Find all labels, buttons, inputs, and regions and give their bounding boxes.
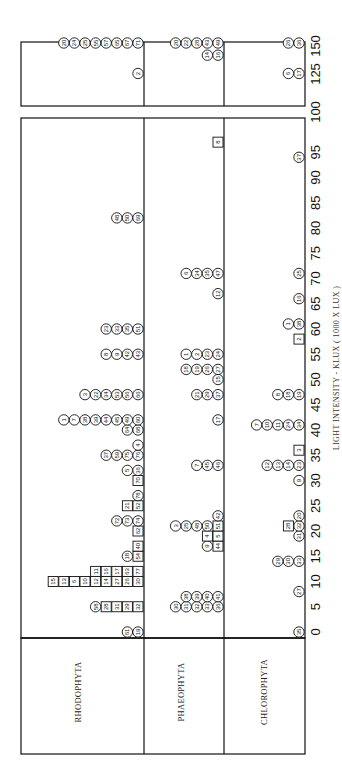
marker-rhodophyta-48: 48 [112, 213, 122, 223]
svg-text:33: 33 [296, 557, 302, 564]
marker-rhodophyta-66: 66 [133, 389, 143, 399]
svg-text:74: 74 [135, 517, 141, 524]
x-tick-label: 20 [308, 524, 323, 538]
marker-chlorophyta-36: 36 [294, 38, 304, 48]
svg-text:61: 61 [124, 628, 130, 635]
marker-rhodophyta-10: 10 [80, 577, 90, 587]
marker-phaeophyta-17: 17 [213, 415, 223, 425]
marker-rhodophyta-42: 42 [122, 349, 132, 359]
marker-rhodophyta-1: 1 [59, 415, 69, 425]
svg-text:48: 48 [194, 522, 200, 529]
svg-text:40: 40 [204, 593, 210, 600]
marker-rhodophyta-68: 68 [133, 425, 143, 435]
svg-text:28: 28 [285, 522, 291, 529]
division-label-chlorophyta: CHLOROPHYTA [259, 658, 269, 724]
marker-rhodophyta-19: 19 [133, 627, 143, 637]
svg-text:24: 24 [285, 421, 291, 428]
marker-phaeophyta-6: 6 [181, 268, 191, 278]
svg-text:33: 33 [204, 603, 210, 610]
x-tick-label: 10 [308, 574, 323, 588]
marker-chlorophyta-28: 28 [283, 521, 293, 531]
marker-phaeophyta-44: 44 [213, 541, 223, 551]
svg-text:72: 72 [114, 517, 120, 524]
marker-phaeophyta-21: 21 [192, 389, 202, 399]
marker-phaeophyta-40: 40 [202, 591, 212, 601]
marker-rhodophyta-12: 12 [91, 577, 101, 587]
svg-text:69: 69 [135, 214, 141, 221]
svg-text:38: 38 [183, 593, 189, 600]
marker-rhodophyta-56: 56 [122, 389, 132, 399]
marker-chlorophyta-1: 1 [283, 319, 293, 329]
svg-text:65: 65 [114, 39, 120, 46]
svg-text:49: 49 [215, 39, 221, 46]
svg-text:35: 35 [296, 628, 302, 635]
marker-rhodophyta-78: 78 [133, 490, 143, 500]
marker-rhodophyta-35: 35 [122, 324, 132, 334]
marker-rhodophyta-3: 3 [80, 389, 90, 399]
marker-chlorophyta-16: 16 [294, 294, 304, 304]
svg-text:57: 57 [103, 39, 109, 46]
marker-phaeophyta-16: 16 [213, 50, 223, 60]
marker-phaeophyta-39: 39 [192, 591, 202, 601]
svg-text:17: 17 [215, 416, 221, 423]
upper-panel-frame [21, 42, 305, 106]
marker-phaeophyta-45: 45 [202, 460, 212, 470]
marker-rhodophyta-65: 65 [112, 38, 122, 48]
svg-text:73: 73 [124, 517, 130, 524]
marker-rhodophyta-5: 5 [122, 465, 132, 475]
marker-rhodophyta-4: 4 [133, 440, 143, 450]
marker-chlorophyta-10: 10 [262, 420, 272, 430]
svg-text:36: 36 [215, 603, 221, 610]
svg-text:29: 29 [124, 603, 130, 610]
svg-text:41: 41 [215, 593, 221, 600]
marker-phaeophyta-20: 20 [170, 38, 180, 48]
svg-text:26: 26 [124, 578, 130, 585]
marker-phaeophyta-41: 41 [213, 591, 223, 601]
marker-rhodophyta-43: 43 [133, 349, 143, 359]
svg-text:24: 24 [215, 350, 221, 357]
marker-phaeophyta-14: 14 [202, 50, 212, 60]
marker-chlorophyta-19: 19 [294, 389, 304, 399]
svg-text:75: 75 [124, 451, 130, 458]
svg-text:15: 15 [215, 376, 221, 383]
marker-rhodophyta-60: 60 [133, 415, 143, 425]
marker-rhodophyta-17: 17 [112, 566, 122, 576]
marker-chlorophyta-8: 8 [273, 389, 283, 399]
marker-rhodophyta-33: 33 [112, 324, 122, 334]
marker-rhodophyta-27: 27 [112, 577, 122, 587]
svg-text:77: 77 [135, 567, 141, 574]
svg-text:45: 45 [204, 461, 210, 468]
svg-text:43: 43 [135, 350, 141, 357]
svg-text:12: 12 [215, 290, 221, 297]
x-tick-label: 95 [308, 145, 323, 159]
svg-text:15: 15 [50, 578, 56, 585]
marker-phaeophyta-36: 36 [213, 602, 223, 612]
marker-phaeophyta-28: 28 [192, 38, 202, 48]
svg-text:32: 32 [296, 522, 302, 529]
svg-text:28: 28 [194, 39, 200, 46]
marker-rhodophyta-30: 30 [133, 577, 143, 587]
x-tick-label: 125 [308, 63, 323, 85]
marker-chlorophyta-29: 29 [273, 556, 283, 566]
x-tick-label: 60 [308, 322, 323, 336]
svg-text:50: 50 [204, 522, 210, 529]
marker-phaeophyta-3: 3 [170, 521, 180, 531]
svg-text:54: 54 [135, 552, 141, 559]
main-panel-frame [21, 118, 305, 638]
svg-text:47: 47 [215, 269, 221, 276]
marker-phaeophyta-15: 15 [213, 374, 223, 384]
marker-chlorophyta-13: 13 [273, 460, 283, 470]
svg-text:38: 38 [82, 416, 88, 423]
marker-phaeophyta-31: 31 [181, 602, 191, 612]
svg-text:35: 35 [124, 325, 130, 332]
marker-chlorophyta-33: 33 [294, 556, 304, 566]
svg-text:51: 51 [215, 522, 221, 529]
marker-rhodophyta-77: 77 [133, 566, 143, 576]
svg-text:18: 18 [183, 365, 189, 372]
marker-chlorophyta-34: 34 [294, 420, 304, 430]
marker-rhodophyta-6: 6 [69, 577, 79, 587]
x-tick-label: 100 [308, 101, 323, 123]
svg-text:14: 14 [103, 578, 109, 585]
marker-rhodophyta-20: 20 [59, 38, 69, 48]
marker-chlorophyta-38: 38 [294, 319, 304, 329]
